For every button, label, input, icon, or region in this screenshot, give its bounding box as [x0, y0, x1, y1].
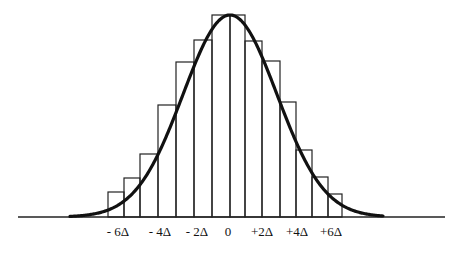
- histogram-bar: [140, 154, 158, 217]
- histogram-chart: [0, 0, 459, 256]
- x-tick-label: +6Δ: [320, 224, 342, 240]
- x-tick-label: +4Δ: [286, 224, 308, 240]
- x-tick-label: +2Δ: [251, 224, 273, 240]
- histogram-bar: [245, 41, 262, 217]
- x-tick-label: - 6Δ: [107, 224, 129, 240]
- histogram-bar: [212, 15, 230, 217]
- x-tick-label: 0: [225, 224, 232, 240]
- histogram-bar: [194, 40, 212, 217]
- gaussian-curve: [70, 15, 383, 216]
- x-tick-label: - 2Δ: [186, 224, 208, 240]
- histogram-bar: [230, 15, 245, 217]
- x-tick-label: - 4Δ: [149, 224, 171, 240]
- histogram-bar: [262, 61, 280, 217]
